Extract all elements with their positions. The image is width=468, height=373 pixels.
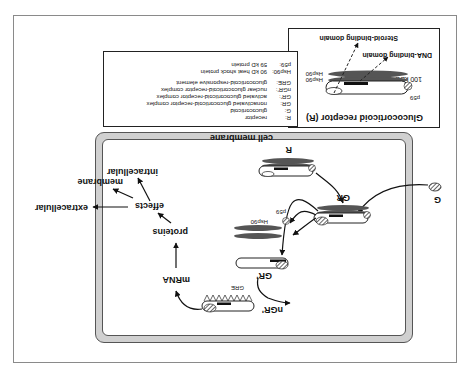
effects-label: effects	[135, 201, 164, 211]
proteins-label: proteins	[152, 227, 188, 237]
diagram-graphics	[0, 0, 468, 373]
membrane-label: membrane	[77, 177, 123, 187]
hsp90-free-label: Hsp90	[251, 219, 268, 225]
mrna-label: mRNA	[162, 275, 190, 285]
grprime-to-ngr-arrow	[257, 278, 290, 303]
free-hsp90	[234, 225, 282, 239]
effects-to-membrane-arrow	[113, 189, 133, 198]
g-label: G	[434, 195, 441, 205]
receptor-illustration	[326, 43, 412, 95]
proteins-to-effects-arrow	[158, 213, 171, 223]
ngr-prime-label: nGR'	[262, 305, 283, 315]
glucocorticoid-molecule	[429, 183, 441, 191]
glucocorticoid-pathway-diagram: cell membrane Glucocorticoid receptor (R…	[0, 0, 468, 373]
free-p59	[283, 218, 290, 225]
intracellular-label: intracellular	[107, 167, 158, 177]
ngr-prime-complex	[202, 295, 254, 312]
gr-label: GR	[337, 193, 351, 203]
gre-label: GRE	[231, 285, 244, 291]
gr-to-grprime-arrow	[282, 200, 318, 255]
r-label: R	[286, 145, 293, 155]
ngr-to-mrna-arrow	[176, 291, 202, 309]
p59-free-label: p59	[276, 209, 286, 215]
gr-to-hsp90-arrow	[293, 218, 316, 235]
g-entry-arrow	[358, 185, 428, 213]
gr-prime-complex	[236, 258, 288, 269]
receptor-r-complex	[259, 158, 316, 177]
gr-prime-label: GR'	[256, 271, 272, 281]
gre-dna	[204, 295, 252, 301]
effects-to-intracellular-arrow	[138, 178, 150, 201]
extracellular-label: extracellular	[35, 203, 88, 213]
gr-complex	[314, 205, 371, 225]
